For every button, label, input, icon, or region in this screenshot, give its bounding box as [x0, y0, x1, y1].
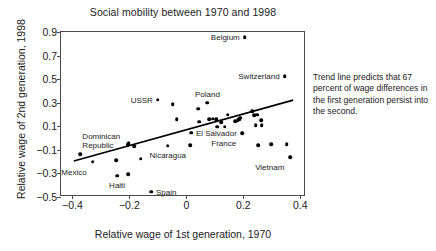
data-point [214, 117, 218, 121]
y-tick-label: 0.7 [42, 50, 57, 62]
data-point [260, 123, 264, 127]
plot-area: 0.90.70.50.30.1−0.1−0.3−0.5 −0.4−0.200.2… [60, 31, 305, 196]
trend-line [61, 32, 306, 197]
point-label: USSR [131, 95, 153, 104]
x-tick-label: −0.2 [119, 199, 140, 211]
data-point [149, 190, 153, 194]
data-point [79, 152, 83, 156]
data-point [114, 159, 118, 163]
data-point [198, 120, 202, 124]
data-point [115, 174, 119, 178]
y-axis-label: Relative wage of 2nd generation, 1998 [15, 9, 27, 209]
data-point [289, 155, 293, 159]
point-label: Dominican Republic [82, 132, 134, 150]
data-point [175, 118, 179, 122]
x-tick-label: 0.2 [236, 199, 251, 211]
point-label: Nicaragua [150, 151, 186, 160]
y-tick-label: 0.5 [42, 73, 57, 85]
data-point [256, 144, 260, 148]
data-point [91, 160, 95, 164]
trend-annotation: Trend line predicts that 67 percent of w… [313, 72, 435, 118]
point-label: El Salvador [196, 128, 237, 137]
data-point [189, 131, 193, 135]
data-point [285, 142, 289, 146]
data-point [255, 113, 259, 117]
x-tick-label: 0 [183, 199, 189, 211]
y-tick-label: −0.5 [36, 191, 57, 203]
scatter-chart-figure: Social mobility between 1970 and 1998 Re… [0, 0, 436, 251]
data-point [166, 144, 170, 148]
data-point [243, 36, 247, 40]
data-point [188, 143, 192, 147]
data-point [206, 101, 210, 105]
x-tick-label: −0.4 [62, 199, 83, 211]
point-label: Switzerland [238, 72, 279, 81]
point-label: France [211, 139, 236, 148]
data-point [269, 142, 273, 146]
point-label: Poland [195, 90, 220, 99]
point-label: Belgium [211, 33, 240, 42]
y-tick-label: −0.1 [36, 144, 57, 156]
data-point [240, 132, 244, 136]
y-tick-mark [57, 197, 61, 198]
y-tick-label: −0.3 [36, 167, 57, 179]
y-tick-label: 0.9 [42, 26, 57, 38]
point-label: Mexico [61, 168, 86, 177]
y-tick-label: 0.1 [42, 120, 57, 132]
chart-title: Social mobility between 1970 and 1998 [60, 6, 306, 18]
data-point [126, 172, 130, 176]
data-point [254, 124, 258, 128]
x-tick-label: 0.4 [293, 199, 308, 211]
data-point [283, 74, 287, 78]
data-point [197, 107, 201, 111]
data-point [259, 118, 263, 122]
x-axis-label: Relative wage of 1st generation, 1970 [60, 228, 306, 240]
y-tick-label: 0.3 [42, 97, 57, 109]
data-point [239, 116, 243, 120]
data-point [219, 120, 223, 124]
data-point [226, 113, 230, 117]
data-point [139, 157, 143, 161]
data-point [156, 98, 160, 102]
point-label: Haiti [109, 181, 125, 190]
point-label: Vietnam [255, 163, 284, 172]
point-label: Spain [156, 187, 176, 196]
data-point [171, 102, 175, 106]
